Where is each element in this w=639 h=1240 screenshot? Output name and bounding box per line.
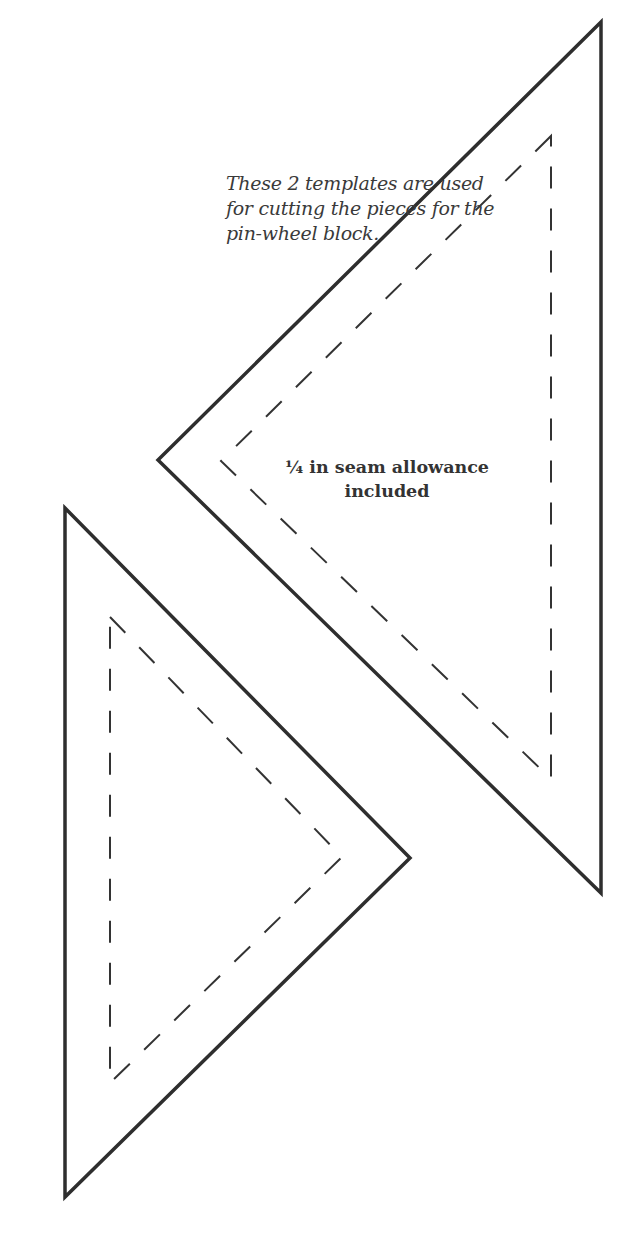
cutting-line-outline (65, 508, 410, 1197)
seam-line-dashed (110, 617, 342, 1083)
label-line: included (252, 479, 522, 503)
instruction-caption: These 2 templates are used for cutting t… (226, 171, 426, 246)
seam-allowance-label: ¼ in seam allowance included (252, 455, 522, 503)
label-line: ¼ in seam allowance (252, 455, 522, 479)
caption-line: These 2 templates are used (226, 171, 426, 196)
caption-line: pin-wheel block. (226, 221, 426, 246)
template-lower-left (65, 508, 410, 1197)
caption-line: for cutting the pieces for the (226, 196, 426, 221)
